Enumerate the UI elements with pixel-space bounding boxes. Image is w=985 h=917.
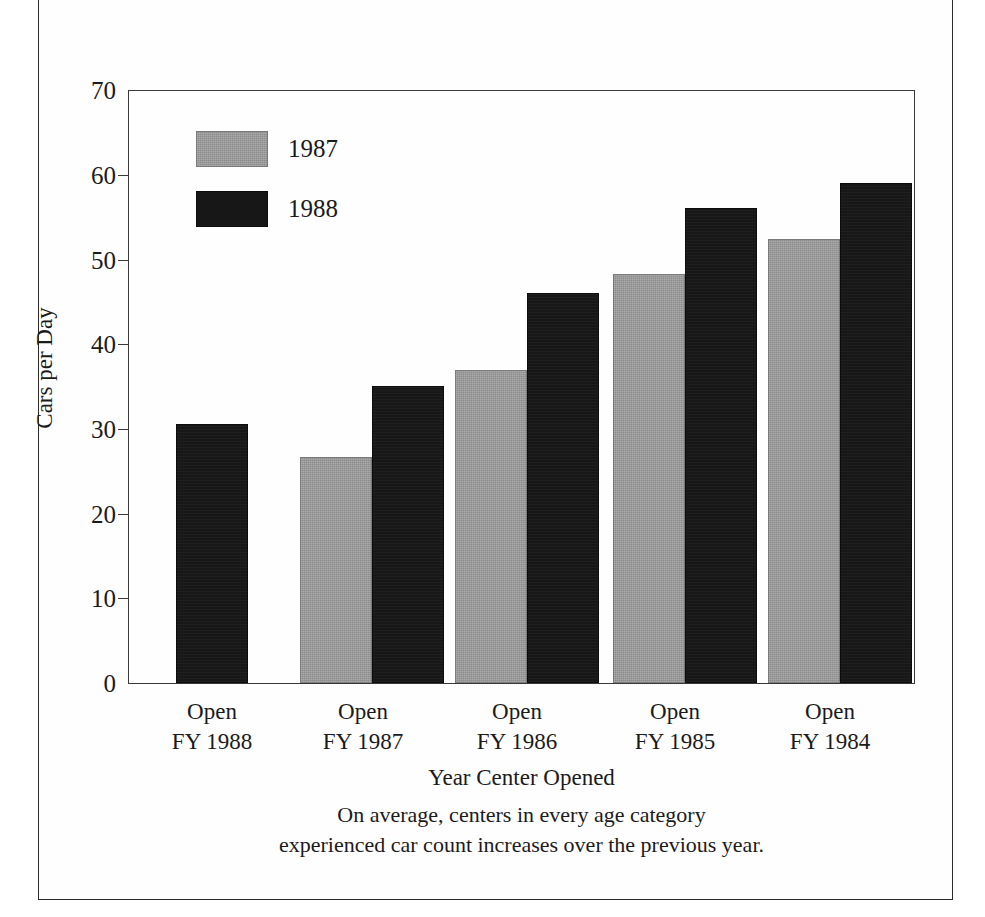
page: Cars per Day 70 60 50 40 30 20 10 0 [0,0,985,917]
y-tick-label-60: 60 [52,163,116,188]
x-category-line2-1: FY 1987 [283,727,443,757]
figure-caption: On average, centers in every age categor… [128,800,915,860]
legend: 1987 1988 [196,131,426,251]
bar-1988-open-fy-1988 [176,424,248,683]
y-tick-label-20: 20 [52,502,116,527]
legend-label-1987: 1987 [288,133,338,165]
x-category-label-3: Open FY 1985 [595,697,755,757]
x-category-label-4: Open FY 1984 [750,697,910,757]
legend-item-1988: 1988 [196,191,426,251]
bar-1988-open-fy-1984 [840,183,912,683]
bar-1987-open-fy-1987 [300,457,372,683]
bar-1988-open-fy-1986 [527,293,599,683]
x-category-line1-2: Open [437,697,597,727]
legend-label-1988: 1988 [288,193,338,225]
x-category-line2-2: FY 1986 [437,727,597,757]
y-tick-label-50: 50 [52,248,116,273]
x-category-line1-3: Open [595,697,755,727]
x-category-label-2: Open FY 1986 [437,697,597,757]
bar-1987-open-fy-1986 [455,370,527,683]
bar-1987-open-fy-1985 [613,274,685,683]
y-tick-label-10: 10 [52,586,116,611]
x-category-line1-1: Open [283,697,443,727]
x-category-line1-4: Open [750,697,910,727]
bar-chart-figure: Cars per Day 70 60 50 40 30 20 10 0 [0,0,985,917]
x-category-line1-0: Open [132,697,292,727]
figure-caption-line-1: On average, centers in every age categor… [128,800,915,830]
x-axis-title: Year Center Opened [128,765,915,791]
x-category-label-1: Open FY 1987 [283,697,443,757]
figure-caption-line-2: experienced car count increases over the… [128,830,915,860]
y-tick-label-70: 70 [52,78,116,103]
x-category-label-0: Open FY 1988 [132,697,292,757]
legend-swatch-1987 [196,131,268,167]
bar-1987-open-fy-1984 [768,239,840,683]
x-category-line2-4: FY 1984 [750,727,910,757]
y-tick-label-0: 0 [52,671,116,696]
legend-item-1987: 1987 [196,131,426,191]
bar-1988-open-fy-1987 [372,386,444,683]
x-category-line2-3: FY 1985 [595,727,755,757]
legend-swatch-1988 [196,191,268,227]
bar-1988-open-fy-1985 [685,208,757,683]
y-axis-tick-labels: 70 60 50 40 30 20 10 0 [36,0,116,917]
y-tick-label-40: 40 [52,332,116,357]
x-category-line2-0: FY 1988 [132,727,292,757]
y-tick-label-30: 30 [52,417,116,442]
